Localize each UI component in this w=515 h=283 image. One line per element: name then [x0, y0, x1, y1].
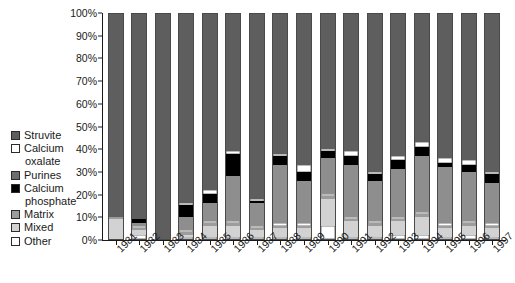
- legend-item-label: Other: [24, 235, 52, 248]
- x-axis-label-slot: 1987: [245, 244, 269, 283]
- bar-slot: [128, 13, 152, 240]
- bar-segment: [462, 14, 476, 160]
- bar-segment: [344, 14, 358, 151]
- y-axis: 0%10%20%30%40%50%60%70%80%90%100%: [64, 8, 102, 240]
- bar-segment: [462, 172, 476, 222]
- bar-segment: [297, 181, 311, 224]
- bar-segment: [321, 151, 335, 158]
- bar-segment: [203, 14, 217, 190]
- bar-segment: [226, 176, 240, 221]
- stacked-bar[interactable]: [225, 13, 241, 240]
- bar-segment: [485, 14, 499, 172]
- legend-swatch-icon: [11, 184, 20, 193]
- bar-slot: [363, 13, 387, 240]
- legend-swatch-icon: [11, 210, 20, 219]
- x-axis-label-slot: 1990: [316, 244, 340, 283]
- y-axis-tick-label: 30%: [76, 166, 97, 178]
- legend-swatch-icon: [11, 131, 20, 140]
- y-axis-tick-label: 80%: [76, 52, 97, 64]
- y-axis-tick-label: 10%: [76, 211, 97, 223]
- x-axis-label-slot: 1988: [269, 244, 293, 283]
- bar-slot: [175, 13, 199, 240]
- y-axis-tick-label: 40%: [76, 143, 97, 155]
- stacked-bar[interactable]: [296, 13, 312, 240]
- bar-segment: [321, 199, 335, 226]
- bar-segment: [391, 169, 405, 216]
- x-axis-label-slot: 1983: [151, 244, 175, 283]
- x-axis-label-slot: 1992: [363, 244, 387, 283]
- bar-segment: [462, 165, 476, 172]
- bar-segment: [415, 14, 429, 142]
- bar-segment: [297, 165, 311, 172]
- bar-slot: [151, 13, 175, 240]
- stacked-bar[interactable]: [272, 13, 288, 240]
- bar-slot: [269, 13, 293, 240]
- bar-segment: [368, 181, 382, 222]
- bar-segment: [203, 203, 217, 221]
- y-axis-tick-label: 90%: [76, 30, 97, 42]
- stacked-bar[interactable]: [249, 13, 265, 240]
- stacked-bar[interactable]: [155, 13, 171, 240]
- bar-segment: [415, 217, 429, 235]
- stacked-bar[interactable]: [320, 13, 336, 240]
- bar-segment: [203, 194, 217, 203]
- x-axis-label-slot: 1993: [386, 244, 410, 283]
- bar-segment: [321, 158, 335, 194]
- legend-item-label: Struvite: [24, 129, 61, 142]
- x-axis-label-slot: 1985: [198, 244, 222, 283]
- bar-segment: [344, 156, 358, 165]
- y-axis-tick-label: 60%: [76, 98, 97, 110]
- bar-slot: [481, 13, 505, 240]
- bar-segment: [179, 205, 193, 216]
- bar-slot: [457, 13, 481, 240]
- x-axis-label-slot: 1989: [292, 244, 316, 283]
- bar-segment: [226, 154, 240, 177]
- bar-segment: [297, 14, 311, 165]
- stacked-bar[interactable]: [178, 13, 194, 240]
- stacked-bar[interactable]: [202, 13, 218, 240]
- stacked-bar[interactable]: [414, 13, 430, 240]
- bar-segment: [273, 165, 287, 224]
- bar-slot: [410, 13, 434, 240]
- bar-segment: [344, 165, 358, 217]
- x-axis-label-slot: 1991: [339, 244, 363, 283]
- bar-segment: [438, 167, 452, 223]
- bar-slot: [245, 13, 269, 240]
- bar-segment: [485, 174, 499, 183]
- stacked-bar[interactable]: [484, 13, 500, 240]
- legend-swatch-icon: [11, 223, 20, 232]
- x-axis-label-slot: 1982: [128, 244, 152, 283]
- bar-segment: [273, 156, 287, 165]
- bar-slot: [292, 13, 316, 240]
- bar-segment: [391, 14, 405, 156]
- bar-segment: [226, 14, 240, 151]
- legend-item-label: Purines: [24, 169, 61, 182]
- y-axis-tick-label: 70%: [76, 75, 97, 87]
- bar-segment: [273, 14, 287, 154]
- bar-slot: [386, 13, 410, 240]
- y-axis-tick-label: 50%: [76, 121, 97, 133]
- bar-segment: [109, 219, 123, 239]
- stacked-bar[interactable]: [390, 13, 406, 240]
- bar-slot: [222, 13, 246, 240]
- legend-swatch-icon: [11, 171, 20, 180]
- y-axis-tick-label: 0%: [82, 234, 97, 246]
- bar-segment: [250, 203, 264, 226]
- stacked-bar[interactable]: [437, 13, 453, 240]
- bar-slot: [198, 13, 222, 240]
- bar-segment: [297, 172, 311, 181]
- y-axis-tick-label: 100%: [70, 7, 97, 19]
- bar-segment: [321, 14, 335, 149]
- legend-item-label: Calcium: [24, 182, 64, 195]
- stacked-bar[interactable]: [131, 13, 147, 240]
- stacked-bar[interactable]: [343, 13, 359, 240]
- legend-swatch-icon: [11, 237, 20, 246]
- x-axis-label-slot: 1995: [433, 244, 457, 283]
- stacked-bar[interactable]: [461, 13, 477, 240]
- bar-segment: [485, 183, 499, 224]
- x-axis-label-slot: 1996: [457, 244, 481, 283]
- legend-item-label: Matrix: [24, 208, 54, 221]
- stacked-bar[interactable]: [367, 13, 383, 240]
- bar-slot: [316, 13, 340, 240]
- stacked-bar[interactable]: [108, 13, 124, 240]
